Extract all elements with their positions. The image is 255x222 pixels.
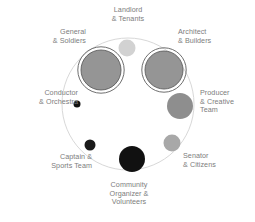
bubble-fill [164, 135, 181, 152]
label-architect-builders: Architect & Builders [178, 28, 252, 45]
bubble-node[interactable] [142, 48, 186, 92]
label-landlord-tenants: Landlord & Tenants [88, 6, 168, 23]
bubble-node[interactable] [164, 135, 181, 152]
bubble-fill [145, 51, 183, 89]
bubble-node[interactable] [85, 140, 96, 151]
bubble-node[interactable] [119, 146, 145, 172]
bubble-fill [119, 40, 136, 57]
diagram-canvas: Landlord & Tenants General & Soldiers Ar… [0, 0, 255, 222]
label-community-organizer-volunteers: Community Organizer & Volunteers [83, 181, 175, 207]
bubble-node[interactable] [167, 93, 193, 119]
bubble-fill [85, 140, 96, 151]
label-general-soldiers: General & Soldiers [14, 28, 86, 45]
bubble-node[interactable] [119, 40, 136, 57]
label-senator-citizens: Senator & Citizens [183, 152, 249, 169]
label-producer-creative-team: Producer & Creative Team [200, 89, 254, 115]
label-captain-sports-team: Captain & Sports Team [16, 153, 92, 170]
bubble-fill [119, 146, 145, 172]
bubble-fill [81, 50, 121, 90]
bubble-node[interactable] [78, 47, 124, 93]
label-conductor-orchestra: Conductor & Orchestra [2, 89, 78, 106]
bubble-fill [167, 93, 193, 119]
